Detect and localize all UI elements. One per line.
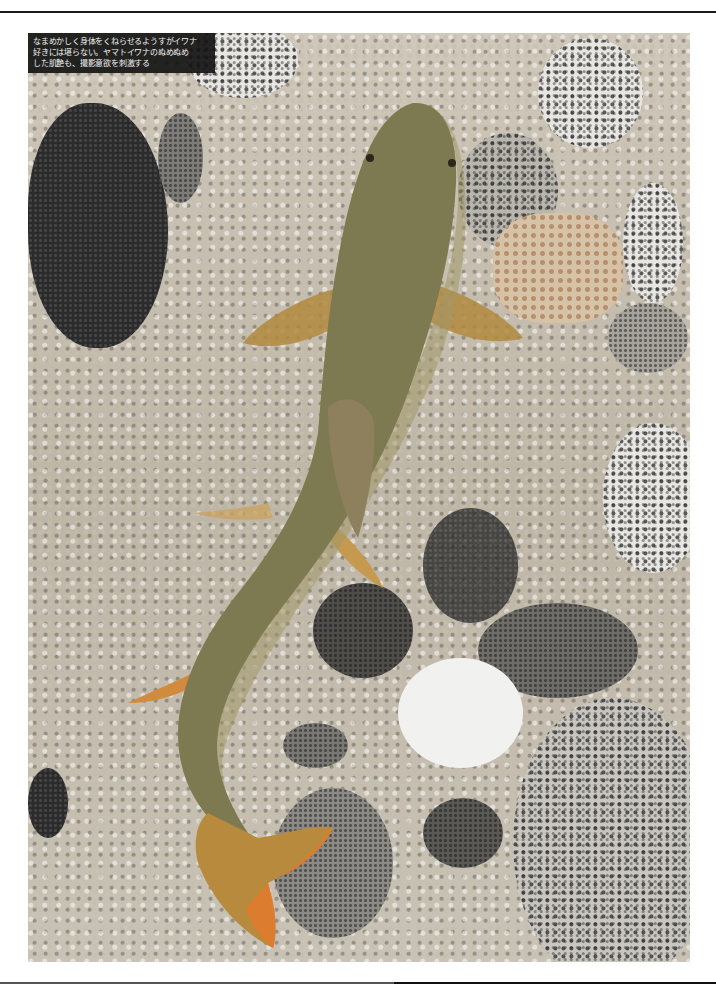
caption-line-2: 好きには堪らない。ヤマトイワナのぬめぬめ xyxy=(33,47,211,58)
fish-illustration xyxy=(28,33,690,962)
caption-line-3: した肌艶も、撮影意欲を刺激する xyxy=(33,58,211,69)
photo-caption: なまめかしく身体をくねらせるようすがイワナ 好きには堪らない。ヤマトイワナのぬめ… xyxy=(28,33,215,73)
top-rule xyxy=(0,11,716,13)
bottom-rule xyxy=(0,982,716,984)
fish-photo xyxy=(28,33,690,962)
caption-line-1: なまめかしく身体をくねらせるようすがイワナ xyxy=(33,36,211,47)
